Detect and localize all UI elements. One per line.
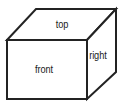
top-face-label: top bbox=[48, 19, 76, 30]
box-diagram: top front right bbox=[0, 0, 123, 107]
front-face-label: front bbox=[27, 64, 60, 75]
right-face-label: right bbox=[89, 50, 117, 61]
